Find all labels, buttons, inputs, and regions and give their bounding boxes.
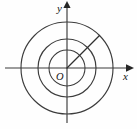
x-axis-label: x <box>122 70 128 82</box>
y-axis-label: y <box>56 2 62 14</box>
origin-label: O <box>56 71 64 82</box>
concentric-circles-diagram: y x O <box>0 0 137 129</box>
y-axis-arrow-icon <box>63 1 70 8</box>
y-axis-group <box>63 1 70 123</box>
radius-line <box>67 36 100 69</box>
figure-container: y x O <box>0 0 137 129</box>
